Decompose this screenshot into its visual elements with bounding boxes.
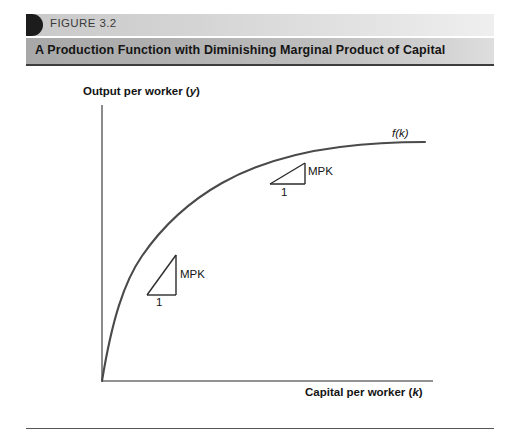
y-axis-label-variable: y (190, 85, 196, 97)
figure-title: A Production Function with Diminishing M… (35, 43, 445, 57)
figure-header: FIGURE 3.2 A Production Function with Di… (26, 14, 494, 68)
y-axis-label-text: Output per worker ( (83, 85, 190, 97)
mpk-label-high-capital: MPK (308, 165, 333, 177)
chart-plot-area: Output per worker (y) Capital per worker… (0, 70, 518, 400)
mpk-triangle-1-hypotenuse (147, 255, 176, 295)
x-axis-label-text: Capital per worker ( (305, 386, 412, 398)
figure-number-bar: FIGURE 3.2 (26, 14, 494, 36)
x-axis-label-variable: k (412, 386, 418, 398)
figure-tab-marker-icon (26, 14, 43, 36)
mpk-triangle-2-hypotenuse (270, 163, 305, 184)
figure-number-label: FIGURE 3.2 (50, 17, 117, 29)
run-label-low-capital: 1 (156, 296, 162, 308)
figure-footer-rule (26, 428, 494, 429)
run-label-high-capital: 1 (281, 186, 287, 198)
production-function-curve (102, 142, 425, 381)
production-function-chart (0, 70, 518, 400)
y-axis-label: Output per worker (y) (83, 85, 200, 97)
x-axis-label: Capital per worker (k) (305, 386, 423, 398)
curve-label-fk: f(k) (392, 127, 409, 139)
mpk-label-low-capital: MPK (180, 268, 205, 280)
figure-title-bar: A Production Function with Diminishing M… (26, 38, 494, 66)
mpk-triangle-low-capital (147, 255, 176, 295)
mpk-triangle-high-capital (270, 163, 305, 184)
